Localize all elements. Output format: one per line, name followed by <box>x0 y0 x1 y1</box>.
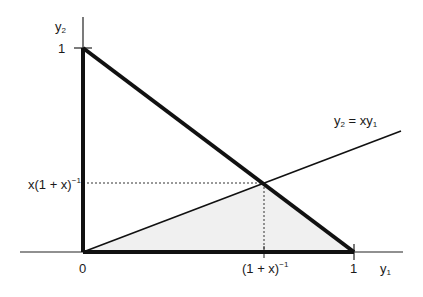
line-equation-label: y2 = xy1 <box>334 114 377 129</box>
y-tick-one-label: 1 <box>58 42 65 55</box>
intersection-y-label: x(1 + x)−1 <box>28 177 81 191</box>
shaded-region <box>83 183 354 252</box>
intersection-x-label: (1 + x)−1 <box>242 261 288 275</box>
origin-label: 0 <box>79 262 86 275</box>
x-tick-one-label: 1 <box>350 262 357 275</box>
y-axis-label: y2 <box>55 20 66 35</box>
x-axis-label: y1 <box>380 262 391 277</box>
